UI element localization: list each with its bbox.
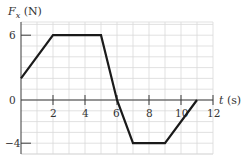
y-tick-label-0: 0	[9, 94, 16, 106]
y-tick-label-neg4: −4	[5, 137, 21, 149]
grid	[21, 22, 213, 154]
y-tick-label-6: 6	[9, 29, 16, 41]
x-tick-label-4: 4	[82, 107, 89, 119]
x-axis-title: t (s)	[219, 94, 241, 107]
force-time-chart: Fx (N) t (s) 6 0 −4 2 4 6 8 10 12	[0, 0, 244, 160]
y-axis-title: Fx (N)	[7, 5, 42, 20]
x-tick-label-6: 6	[113, 107, 120, 119]
x-tick-label-2: 2	[50, 107, 57, 119]
x-tick-label-12: 12	[207, 107, 220, 119]
x-tick-label-8: 8	[146, 107, 153, 119]
